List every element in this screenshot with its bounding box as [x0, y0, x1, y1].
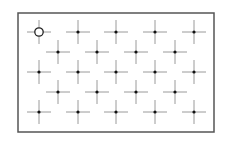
- point-dot-icon: [76, 30, 79, 33]
- point-dot-icon: [192, 110, 195, 113]
- point-dot-icon: [114, 70, 117, 73]
- point-dot-icon: [114, 30, 117, 33]
- crosshair-point: [104, 60, 128, 84]
- crosshair-point: [46, 80, 70, 104]
- crosshair-point: [182, 100, 206, 124]
- crosshair-point: [104, 20, 128, 44]
- crosshair-points: [27, 20, 206, 124]
- point-dot-icon: [173, 90, 176, 93]
- crosshair-point: [104, 100, 128, 124]
- crosshair-point: [143, 100, 167, 124]
- crosshair-grid-diagram: [0, 0, 230, 145]
- point-dot-icon: [153, 70, 156, 73]
- point-dot-icon: [114, 110, 117, 113]
- crosshair-point: [27, 60, 51, 84]
- crosshair-point: [163, 80, 187, 104]
- crosshair-point: [46, 40, 70, 64]
- crosshair-point: [163, 40, 187, 64]
- point-dot-icon: [76, 110, 79, 113]
- crosshair-point: [143, 20, 167, 44]
- point-dot-icon: [37, 70, 40, 73]
- point-dot-icon: [153, 110, 156, 113]
- crosshair-point: [182, 20, 206, 44]
- crosshair-point: [124, 80, 148, 104]
- circle-marker-icon: [35, 28, 43, 36]
- crosshair-point: [182, 60, 206, 84]
- point-dot-icon: [56, 50, 59, 53]
- crosshair-point: [66, 100, 90, 124]
- crosshair-point: [27, 100, 51, 124]
- selected-point-marker: [27, 20, 51, 44]
- point-dot-icon: [95, 50, 98, 53]
- point-dot-icon: [95, 90, 98, 93]
- crosshair-point: [124, 40, 148, 64]
- point-dot-icon: [37, 110, 40, 113]
- point-dot-icon: [192, 30, 195, 33]
- point-dot-icon: [134, 50, 137, 53]
- point-dot-icon: [56, 90, 59, 93]
- point-dot-icon: [153, 30, 156, 33]
- point-dot-icon: [76, 70, 79, 73]
- point-dot-icon: [134, 90, 137, 93]
- crosshair-point: [66, 60, 90, 84]
- point-dot-icon: [192, 70, 195, 73]
- point-dot-icon: [173, 50, 176, 53]
- crosshair-point: [143, 60, 167, 84]
- crosshair-point: [66, 20, 90, 44]
- crosshair-point: [85, 80, 109, 104]
- crosshair-point: [85, 40, 109, 64]
